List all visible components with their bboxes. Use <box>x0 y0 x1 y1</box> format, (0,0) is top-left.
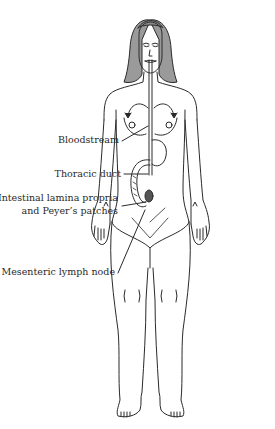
label-thoracic-duct: Thoracic duct <box>55 168 121 180</box>
left-leg <box>111 222 148 417</box>
label-intestinal-lamina-line2: and Peyer’s patches <box>22 205 118 217</box>
label-mesenteric-lymph-node: Mesenteric lymph node <box>2 266 116 278</box>
bloodstream-arrow-left <box>128 104 148 116</box>
leader-bloodstream <box>122 126 148 141</box>
anatomy-diagram: Bloodstream Thoracic duct Intestinal lam… <box>0 0 275 429</box>
label-bloodstream: Bloodstream <box>58 134 119 146</box>
peyers-patch <box>145 190 153 202</box>
right-leg <box>153 222 190 417</box>
bloodstream-arrow-right <box>154 104 174 116</box>
right-arm <box>191 120 209 245</box>
thoracic-duct <box>149 60 152 175</box>
label-intestinal-lamina-line1: Intestinal lamina propria <box>0 192 118 204</box>
leader-intestinal <box>122 202 146 206</box>
hair-icon <box>124 20 150 83</box>
